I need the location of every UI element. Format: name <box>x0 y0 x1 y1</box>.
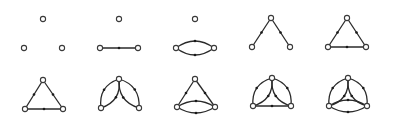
edge-mark <box>103 89 106 92</box>
graph-figure-4 <box>249 15 292 49</box>
edge-mark <box>194 54 197 57</box>
vertex-node <box>363 44 368 49</box>
graph-figure-8 <box>174 76 217 114</box>
edge-mark <box>279 31 282 34</box>
graph-figure-1 <box>21 16 64 50</box>
edge-mark <box>194 40 197 43</box>
graph-figure-2 <box>97 16 140 50</box>
vertex-node <box>192 16 197 21</box>
vertex-node <box>40 16 45 21</box>
vertex-node <box>60 106 65 111</box>
edge-mark <box>347 111 350 114</box>
vertex-node <box>174 104 179 109</box>
graph-figure-5 <box>325 15 368 49</box>
edge-mark <box>355 31 358 34</box>
edge-mark <box>52 93 55 96</box>
edge-mark <box>115 96 118 99</box>
edge-mark <box>133 88 136 91</box>
vertex-node <box>116 16 121 21</box>
edge-mark <box>33 93 36 96</box>
vertex-node <box>269 75 274 80</box>
graph-figure-7 <box>98 76 141 110</box>
vertex-node <box>22 106 27 111</box>
edge-mark <box>204 92 207 95</box>
edge-mark <box>274 95 277 98</box>
vertex-node <box>326 103 331 108</box>
edge-mark <box>195 112 198 115</box>
vertex-node <box>136 105 141 110</box>
graph-figure-6 <box>22 77 65 111</box>
vertex-node <box>364 103 369 108</box>
edge-mark <box>286 87 289 90</box>
vertex-node <box>98 105 103 110</box>
vertex-node <box>268 15 273 20</box>
vertex-node <box>21 45 26 50</box>
edge-mark <box>331 87 334 90</box>
edge-mark <box>336 31 339 34</box>
vertex-node <box>250 103 255 108</box>
edge-mark <box>255 87 258 90</box>
edge-mark <box>350 95 353 98</box>
vertex-node <box>212 104 217 109</box>
edge-mark <box>260 31 263 34</box>
vertex-node <box>59 45 64 50</box>
vertex-node <box>116 76 121 81</box>
edge-mark <box>267 95 270 98</box>
vertex-node <box>192 76 197 81</box>
edge-mark <box>43 108 46 111</box>
edge-mark <box>122 96 125 99</box>
edge-mark <box>347 99 350 102</box>
vertex-node <box>40 77 45 82</box>
vertex-node <box>211 45 216 50</box>
vertex-node <box>249 44 254 49</box>
vertex-node <box>135 45 140 50</box>
edge-mark <box>195 100 198 103</box>
edge-mark <box>362 87 365 90</box>
edge-mark <box>271 105 274 108</box>
vertex-node <box>97 45 102 50</box>
vertex-node <box>344 15 349 20</box>
edge-mark <box>343 95 346 98</box>
vertex-node <box>325 44 330 49</box>
graph-figure-9 <box>250 75 293 108</box>
graph-figure-3 <box>173 16 216 56</box>
edge-mark <box>346 46 349 49</box>
graph-figure-10 <box>326 75 369 113</box>
vertex-node <box>288 103 293 108</box>
vertex-node <box>287 44 292 49</box>
edge-mark <box>185 92 188 95</box>
edge-mark <box>118 47 121 50</box>
vertex-node <box>173 45 178 50</box>
graph-sequence-diagram <box>0 0 402 123</box>
vertex-node <box>345 75 350 80</box>
